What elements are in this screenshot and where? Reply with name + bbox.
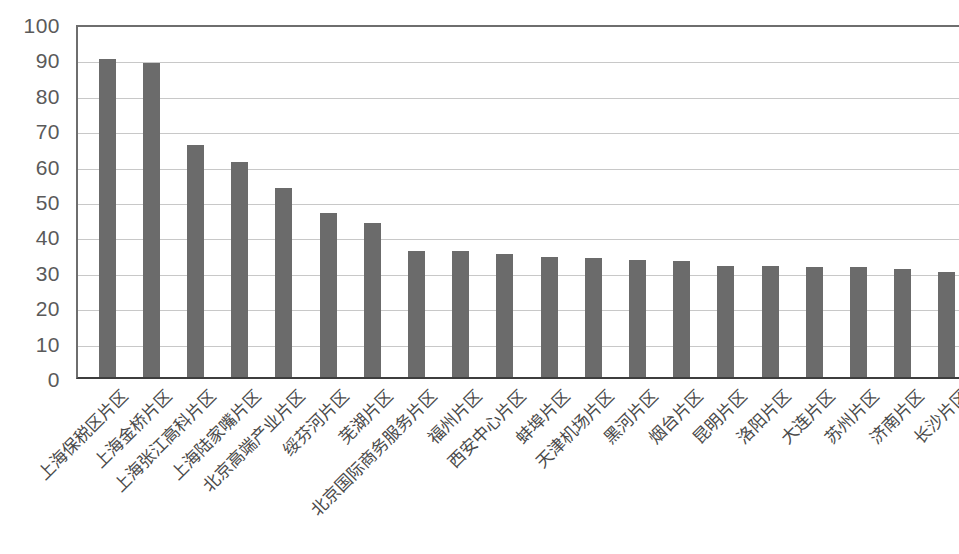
bar xyxy=(541,257,558,377)
y-axis-tick-label: 50 xyxy=(36,192,60,213)
bar xyxy=(320,213,337,377)
y-axis-tick-label: 10 xyxy=(36,333,60,354)
x-axis: 上海保税区片区上海金桥片区上海张江高科片区上海陆家嘴片区北京高端产业片区绥芬河片… xyxy=(76,383,959,554)
bar xyxy=(99,59,116,377)
bar xyxy=(938,272,955,377)
bar xyxy=(452,251,469,377)
bar xyxy=(629,260,646,377)
bar xyxy=(143,63,160,377)
bar xyxy=(850,267,867,377)
bar xyxy=(364,223,381,377)
y-axis-tick-label: 90 xyxy=(36,50,60,71)
y-axis-tick-label: 100 xyxy=(23,15,60,36)
bar-chart: 1009080706050403020100 上海保税区片区上海金桥片区上海张江… xyxy=(0,0,959,554)
y-axis-tick-label: 20 xyxy=(36,298,60,319)
bars-group xyxy=(78,27,959,377)
bar xyxy=(408,251,425,377)
bar xyxy=(496,254,513,377)
y-axis-tick-label: 70 xyxy=(36,121,60,142)
y-axis-tick-label: 60 xyxy=(36,156,60,177)
bar xyxy=(673,261,690,377)
bar xyxy=(585,258,602,377)
bar xyxy=(275,188,292,377)
plot-area xyxy=(76,25,959,379)
y-axis-tick-label: 80 xyxy=(36,85,60,106)
bar xyxy=(806,267,823,377)
y-axis-tick-label: 0 xyxy=(48,369,60,390)
y-axis-tick-label: 30 xyxy=(36,262,60,283)
bar xyxy=(762,266,779,378)
bar xyxy=(894,269,911,377)
bar xyxy=(187,145,204,377)
bar xyxy=(231,162,248,377)
y-axis-tick-label: 40 xyxy=(36,227,60,248)
bar xyxy=(717,266,734,378)
